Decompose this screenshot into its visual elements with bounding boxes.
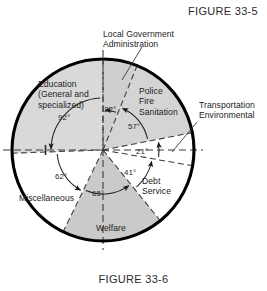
top-figure-caption: FIGURE 33-5: [188, 5, 258, 17]
slice-label-education: Education (General and specialized): [38, 79, 89, 110]
slice-label-debt-service: Debt Service: [142, 176, 171, 197]
slice-label-transportation-environmental: Transportation Environmental: [199, 100, 255, 121]
slice-label-police-fire-sanitation: Police Fire Sanitation: [139, 86, 178, 117]
angle-label-22: 22°: [104, 105, 116, 114]
angle-label-92: 92°: [58, 113, 70, 122]
angle-label-21: 21°: [136, 147, 148, 156]
angle-label-57: 57°: [128, 122, 140, 131]
slice-label-local-government-administration: Local Government Administration: [103, 29, 174, 50]
slice-label-miscellaneous: Miscellaneous: [19, 193, 74, 203]
angle-label-62: 62°: [55, 172, 67, 181]
angle-arc-21: [158, 142, 159, 157]
slice-label-welfare: Welfare: [96, 223, 126, 233]
bottom-figure-caption: FIGURE 33-6: [0, 273, 267, 285]
angle-label-65: 65°: [92, 189, 104, 198]
angle-label-41: 41°: [124, 168, 136, 177]
